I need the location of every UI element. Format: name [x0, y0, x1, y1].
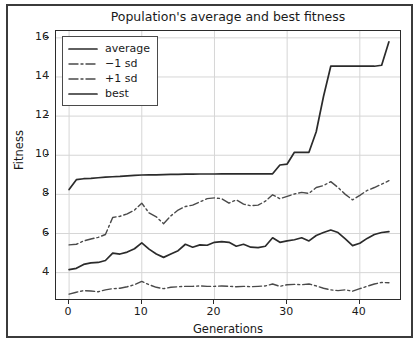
x-tick-mark	[286, 300, 287, 304]
x-axis-label: Generations	[55, 322, 401, 336]
legend-line-swatch	[68, 88, 98, 100]
x-axis-ticks: 010203040	[55, 305, 401, 321]
y-tick-label: 4	[5, 265, 49, 278]
x-tick-mark	[213, 300, 214, 304]
legend-line-swatch	[68, 43, 98, 55]
x-tick-mark	[359, 300, 360, 304]
y-tick-mark	[45, 37, 49, 38]
y-tick-label: 10	[5, 147, 49, 160]
y-tick-mark	[45, 115, 49, 116]
x-tick-label: 40	[339, 305, 379, 318]
legend-item: +1 sd	[68, 71, 150, 86]
y-tick-mark	[45, 76, 49, 77]
y-axis-ticks: 46810121416	[0, 30, 49, 300]
legend-item-label: best	[105, 87, 129, 100]
legend-item: average	[68, 41, 150, 56]
x-tick-mark	[141, 300, 142, 304]
x-tick-label: 10	[121, 305, 161, 318]
legend-item-label: average	[105, 42, 150, 55]
x-tick-mark	[68, 300, 69, 304]
series-line-1	[69, 281, 389, 294]
y-tick-label: 14	[5, 69, 49, 82]
y-tick-label: 12	[5, 108, 49, 121]
legend-item-label: −1 sd	[105, 57, 137, 70]
legend-item-label: +1 sd	[105, 72, 137, 85]
x-tick-label: 30	[266, 305, 306, 318]
y-tick-mark	[45, 272, 49, 273]
legend-line-swatch	[68, 58, 98, 70]
x-tick-label: 0	[48, 305, 88, 318]
figure: Population's average and best fitness Fi…	[0, 0, 419, 346]
chart-title: Population's average and best fitness	[55, 9, 401, 25]
y-tick-mark	[45, 193, 49, 194]
y-tick-mark	[45, 233, 49, 234]
legend-item: −1 sd	[68, 56, 150, 71]
series-line-0	[69, 230, 389, 270]
y-tick-label: 8	[5, 186, 49, 199]
y-tick-label: 6	[5, 226, 49, 239]
x-tick-label: 20	[193, 305, 233, 318]
y-tick-mark	[45, 154, 49, 155]
y-tick-label: 16	[5, 30, 49, 43]
legend-line-swatch	[68, 73, 98, 85]
legend-item: best	[68, 86, 150, 101]
chart-legend: average−1 sd+1 sdbest	[62, 36, 158, 106]
